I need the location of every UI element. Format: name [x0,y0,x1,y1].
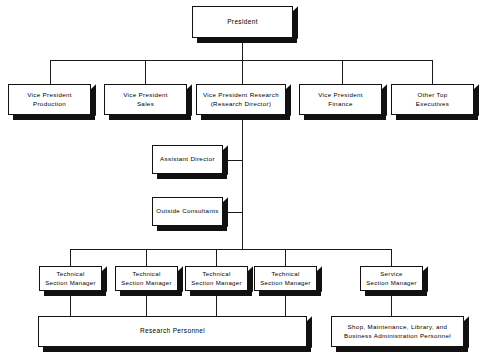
node-assistant-director-label: Assistant Director [157,155,218,163]
connector-drop-vp-sales [145,60,146,84]
node-outside-consultants-label: Outside Consultants [153,207,221,215]
node-vp-finance[interactable]: Vice President Finance [299,84,382,115]
node-assistant-director[interactable]: Assistant Director [152,145,223,174]
node-research-personnel[interactable]: Research Personnel [38,316,307,347]
node-other-top-executives-label: Other Top Executives [413,91,452,108]
node-vp-production-label: Vice President Production [24,91,75,108]
node-vp-sales[interactable]: Vice President Sales [104,84,187,115]
node-outside-consultants[interactable]: Outside Consultants [152,197,223,226]
node-technical-section-manager-3-label: Technical Section Manager [188,270,245,286]
connector-drop-service-mgr [391,249,392,266]
node-technical-section-manager-2[interactable]: Technical Section Manager [115,266,178,291]
node-vp-research-label: Vice President Research (Research Direct… [200,91,282,108]
connector-drop-vp-finance [342,60,343,84]
node-president-label: President [224,18,261,27]
node-support-personnel-label: Shop, Maintenance, Library, and Business… [341,323,454,340]
node-president[interactable]: President [192,6,293,38]
connector-exec-bus [50,60,432,61]
node-vp-finance-label: Vice President Finance [315,91,366,108]
node-research-personnel-label: Research Personnel [137,327,208,336]
connector-drop-tech-mgr-1 [70,249,71,266]
node-service-section-manager[interactable]: Service Section Manager [360,266,423,291]
node-other-top-executives[interactable]: Other Top Executives [391,84,474,115]
node-vp-production[interactable]: Vice President Production [8,84,91,115]
connector-drop-other-top [432,60,433,84]
node-technical-section-manager-2-label: Technical Section Manager [118,270,175,286]
connector-drop-tech-mgr-2 [146,249,147,266]
node-technical-section-manager-3[interactable]: Technical Section Manager [185,266,248,291]
node-vp-research[interactable]: Vice President Research (Research Direct… [196,84,286,115]
connector-drop-tech-mgr-3 [216,249,217,266]
node-vp-sales-label: Vice President Sales [120,91,171,108]
connector-section-bus [70,249,391,250]
connector-research-spine [242,115,243,249]
node-technical-section-manager-4-label: Technical Section Manager [257,270,314,286]
node-support-personnel[interactable]: Shop, Maintenance, Library, and Business… [331,316,464,347]
node-technical-section-manager-1-label: Technical Section Manager [42,270,99,286]
node-service-section-manager-label: Service Section Manager [363,270,420,286]
node-technical-section-manager-4[interactable]: Technical Section Manager [254,266,317,291]
connector-drop-tech-mgr-4 [285,249,286,266]
connector-drop-vp-research [242,60,243,84]
org-chart: President Vice President Production Vice… [0,0,488,364]
node-technical-section-manager-1[interactable]: Technical Section Manager [39,266,102,291]
connector-drop-vp-production [50,60,51,84]
